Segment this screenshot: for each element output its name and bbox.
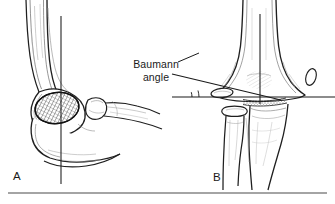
baumann-angle-arc: [191, 92, 192, 97]
distal-humeral-physis: [243, 98, 287, 107]
anterior-soft-tissue-line: [48, 8, 70, 93]
lateral-epicondyle-ring: [304, 67, 318, 86]
figure-container: Baumann angle A B: [0, 0, 335, 204]
baumann-angle-label-line1: Baumann: [120, 58, 192, 71]
baumann-angle-label-line2: angle: [120, 71, 192, 84]
panel-a-lateral-elbow: [26, 0, 162, 184]
humerus-shaft-lateral: [26, 0, 58, 94]
ulna-ap: [246, 104, 288, 190]
radial-head-ap: [222, 106, 248, 116]
panel-b-ap-elbow: [172, 0, 335, 190]
panel-label-b: B: [213, 171, 221, 183]
panel-label-a: A: [13, 170, 21, 182]
radius-shaft-ap: [223, 116, 244, 190]
baumann-angle-label: Baumann angle: [120, 58, 192, 83]
proximal-radius-lateral: [86, 98, 162, 129]
baumann-angle-arc-outer: [198, 91, 199, 98]
illustration-artwork: [0, 0, 335, 204]
